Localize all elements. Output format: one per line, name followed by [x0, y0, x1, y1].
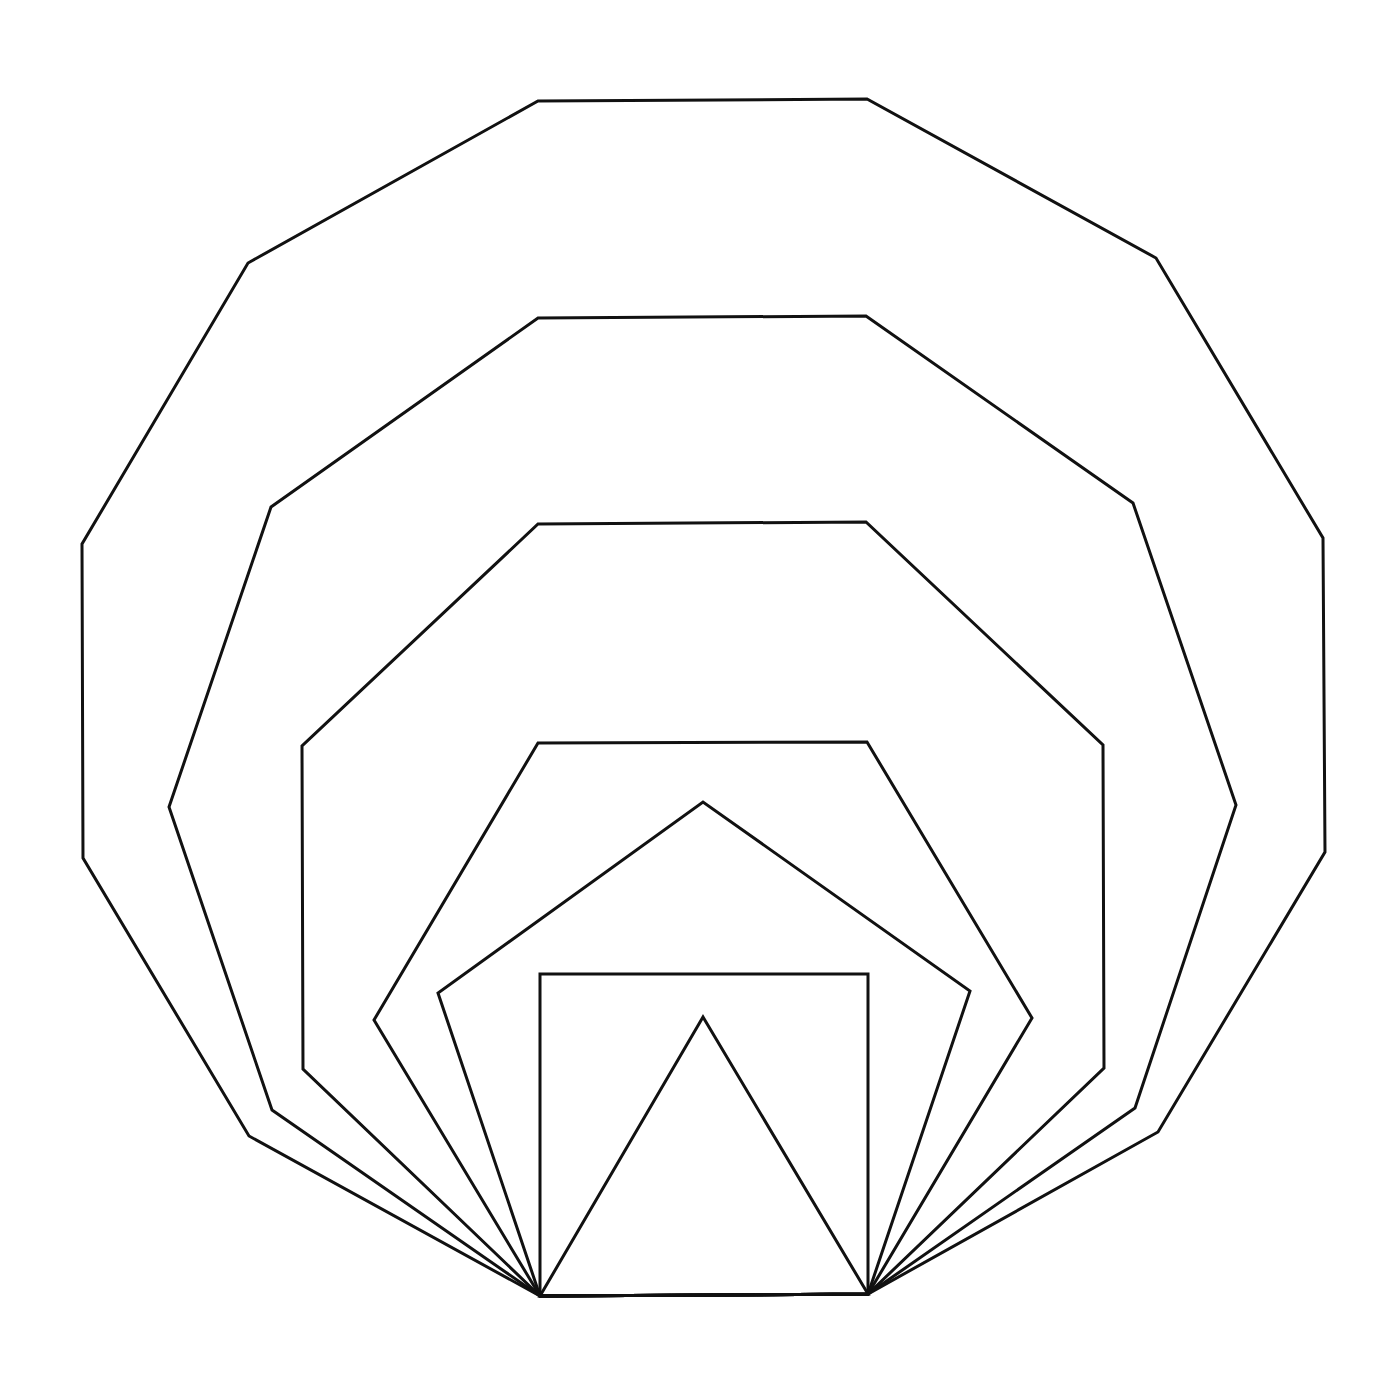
polygon-triangle: [540, 1017, 868, 1296]
polygon-square: [540, 974, 868, 1296]
polygon-heptagon: [302, 522, 1104, 1296]
polygon-octagon: [169, 316, 1236, 1296]
nested-polygons-diagram: [0, 0, 1395, 1379]
polygon-dodecagon: [82, 99, 1325, 1296]
polygon-pentagon: [438, 802, 970, 1296]
